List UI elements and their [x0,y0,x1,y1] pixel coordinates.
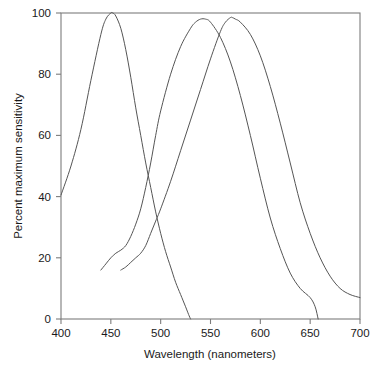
x-axis-ticks [61,319,360,324]
x-tick-label: 550 [201,327,220,339]
y-axis-tick-labels: 020406080100 [32,7,51,325]
y-axis-title: Percent maximum sensitivity [12,93,24,239]
x-tick-label: 500 [151,327,170,339]
x-axis-title: Wavelength (nanometers) [144,348,276,360]
y-tick-label: 60 [38,129,51,141]
spectral-sensitivity-chart: 400450500550600650700 020406080100 Wavel… [0,0,378,378]
x-tick-label: 450 [101,327,120,339]
x-tick-label: 700 [350,327,369,339]
y-tick-label: 100 [32,7,51,19]
x-tick-label: 600 [251,327,270,339]
x-tick-label: 650 [301,327,320,339]
y-axis-ticks [56,13,61,319]
y-tick-label: 80 [38,68,51,80]
y-tick-label: 20 [38,252,51,264]
x-axis-tick-labels: 400450500550600650700 [51,327,369,339]
data-curves [61,12,360,319]
sensitivity-curve [61,12,191,319]
sensitivity-curve [121,17,360,297]
x-tick-label: 400 [51,327,70,339]
chart-container: 400450500550600650700 020406080100 Wavel… [0,0,378,378]
y-tick-label: 0 [45,313,51,325]
sensitivity-curve [101,19,318,319]
y-tick-label: 40 [38,191,51,203]
